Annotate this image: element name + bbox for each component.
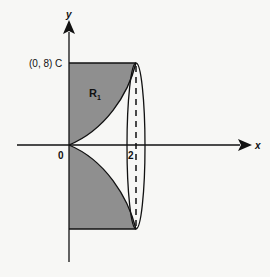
- x-tick-label-2: 2: [128, 150, 134, 161]
- x-axis-arrow-icon: [238, 139, 252, 151]
- point-c-label: (0, 8) C: [29, 58, 62, 69]
- shaded-region-upper: [69, 63, 136, 145]
- x-axis-label: x: [254, 140, 261, 151]
- solid-of-revolution-diagram: y x (0, 8) C 0 2 R1: [0, 0, 270, 277]
- origin-label: 0: [58, 150, 64, 161]
- region-subscript: 1: [97, 94, 101, 101]
- y-axis-arrow-icon: [63, 20, 75, 34]
- y-axis-label: y: [65, 9, 72, 20]
- region-label: R: [89, 87, 97, 99]
- shaded-region-lower: [69, 145, 136, 229]
